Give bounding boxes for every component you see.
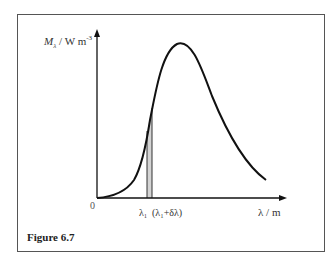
- lambda1-label: λ₁: [139, 207, 147, 218]
- emittance-curve: [97, 43, 266, 198]
- y-axis-arrow-icon: [94, 29, 100, 37]
- lambda1-plus-delta-label: (λ₁+δλ): [152, 207, 182, 218]
- figure-caption: Figure 6.7: [27, 231, 74, 243]
- x-axis-label: λ / m: [258, 206, 280, 218]
- origin-label: 0: [90, 200, 95, 211]
- x-axis-arrow-icon: [279, 195, 287, 201]
- y-axis-label: Mλ / W m-3: [44, 34, 92, 50]
